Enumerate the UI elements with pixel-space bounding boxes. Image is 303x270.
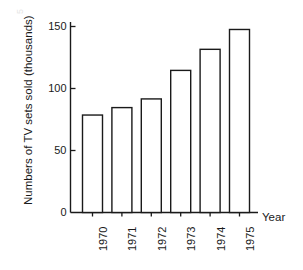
y-tick-label: 50 (54, 145, 66, 156)
x-tick-label-1970: 1970 (98, 226, 109, 250)
x-tick-label-1973: 1973 (186, 226, 197, 250)
bar (200, 49, 220, 212)
bar (141, 99, 161, 213)
bar (112, 108, 132, 213)
y-tick-marks-group (71, 27, 76, 151)
y-axis-title: Numbers of TV sets sold (thousands) (23, 15, 35, 205)
bar (83, 115, 103, 212)
x-tick-label-1972: 1972 (157, 226, 168, 250)
x-axis-title: Year (262, 212, 285, 224)
bars-group (83, 29, 250, 216)
bar-chart-figure: 5 050100150 197019711972197319741975 Num… (0, 0, 303, 270)
y-tick-label: 100 (48, 83, 66, 94)
x-tick-label-1974: 1974 (216, 226, 227, 250)
y-tick-label: 150 (48, 21, 66, 32)
bar (171, 70, 191, 212)
chart-canvas (0, 0, 303, 270)
x-tick-label-1975: 1975 (245, 226, 256, 250)
x-tick-label-1971: 1971 (127, 226, 138, 250)
bar (230, 29, 250, 212)
y-tick-label: 0 (60, 207, 66, 218)
